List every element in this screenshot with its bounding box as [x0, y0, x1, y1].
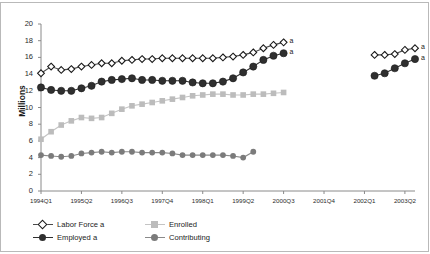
- y-axis-tick-label: 20: [11, 19, 33, 28]
- chart-legend: Labor Force aEnrolledEmployed aContribut…: [33, 218, 263, 244]
- data-point-marker: [179, 77, 186, 84]
- legend-item-label: Enrolled: [169, 220, 197, 229]
- data-point-marker: [230, 53, 237, 60]
- chart-page: Millions 201816141210864201994Q11995Q219…: [0, 0, 430, 254]
- data-point-marker: [170, 96, 176, 102]
- data-point-marker: [371, 51, 378, 58]
- data-point-marker: [219, 78, 226, 85]
- data-point-marker: [280, 50, 287, 57]
- legend-marker-icon: [145, 220, 165, 229]
- y-axis-tick-label: 14: [11, 69, 33, 78]
- x-axis-tick-label: 1999Q2: [220, 197, 266, 204]
- data-point-marker: [261, 91, 267, 97]
- data-point-marker: [190, 93, 196, 99]
- data-point-marker: [210, 152, 216, 158]
- legend-marker-icon: [33, 220, 53, 229]
- chart-plot-area: [0, 0, 430, 254]
- data-point-marker: [250, 49, 257, 56]
- data-point-marker: [58, 87, 65, 94]
- y-axis-tick-label: 18: [11, 36, 33, 45]
- data-point-marker: [98, 78, 105, 85]
- data-point-marker: [240, 51, 247, 58]
- y-axis-tick-label: 4: [11, 153, 33, 162]
- y-axis-tick-label: 8: [11, 119, 33, 128]
- data-point-marker: [48, 129, 54, 135]
- legend-item[interactable]: Enrolled: [145, 220, 257, 229]
- data-point-marker: [58, 67, 65, 74]
- x-axis-tick-label: 2000Q3: [261, 197, 307, 204]
- data-point-marker: [109, 111, 115, 117]
- data-point-marker: [129, 57, 136, 64]
- data-point-marker: [371, 72, 378, 79]
- data-point-marker: [38, 152, 44, 158]
- data-point-marker: [209, 55, 216, 62]
- x-axis-tick-label: 2001Q4: [301, 197, 347, 204]
- x-axis-tick-label: 2002Q1: [341, 197, 387, 204]
- data-point-marker: [79, 115, 85, 121]
- data-point-marker: [220, 91, 226, 97]
- data-point-marker: [391, 51, 398, 58]
- data-point-marker: [169, 55, 176, 62]
- data-point-marker: [68, 66, 75, 73]
- data-point-marker: [159, 98, 165, 104]
- data-point-marker: [230, 153, 236, 159]
- legend-item-label: Contributing: [169, 233, 210, 242]
- data-point-marker: [138, 76, 145, 83]
- data-point-marker: [381, 51, 388, 58]
- data-point-marker: [189, 79, 196, 86]
- data-point-marker: [220, 54, 227, 61]
- data-point-marker: [98, 60, 105, 67]
- y-axis-tick-label: 0: [11, 186, 33, 195]
- data-point-marker: [48, 86, 55, 93]
- data-point-marker: [119, 149, 125, 155]
- data-point-marker: [200, 92, 206, 98]
- data-point-marker: [58, 122, 64, 128]
- series-end-annotation: a: [421, 54, 425, 61]
- data-point-marker: [271, 91, 277, 97]
- data-point-marker: [108, 76, 115, 83]
- data-point-marker: [118, 57, 125, 64]
- data-point-marker: [139, 56, 146, 63]
- data-point-marker: [99, 115, 105, 121]
- data-point-marker: [48, 63, 55, 70]
- y-axis-tick-label: 2: [11, 169, 33, 178]
- data-point-marker: [108, 60, 115, 67]
- data-point-marker: [88, 82, 95, 89]
- data-point-marker: [99, 149, 105, 155]
- data-point-marker: [78, 63, 85, 70]
- legend-item[interactable]: Employed a: [33, 233, 145, 242]
- data-point-marker: [69, 118, 75, 124]
- legend-item-label: Labor Force a: [57, 220, 104, 229]
- data-point-marker: [260, 56, 267, 63]
- data-point-marker: [109, 150, 115, 156]
- data-point-marker: [180, 152, 186, 158]
- data-point-marker: [68, 153, 74, 159]
- legend-item[interactable]: Labor Force a: [33, 220, 145, 229]
- data-point-marker: [240, 155, 246, 161]
- data-point-marker: [190, 152, 196, 158]
- data-point-marker: [128, 75, 135, 82]
- data-point-marker: [229, 75, 236, 82]
- data-point-marker: [68, 87, 75, 94]
- x-axis-tick-label: 1997Q4: [139, 197, 185, 204]
- data-point-marker: [89, 150, 95, 156]
- data-point-marker: [199, 55, 206, 62]
- legend-item[interactable]: Contributing: [145, 233, 257, 242]
- data-point-marker: [250, 63, 257, 70]
- data-point-marker: [412, 45, 419, 52]
- data-point-marker: [210, 91, 216, 97]
- x-axis-tick-label: 1996Q3: [99, 197, 145, 204]
- data-point-marker: [220, 152, 226, 158]
- legend-marker-icon: [145, 233, 165, 242]
- data-point-marker: [149, 56, 156, 63]
- data-point-marker: [240, 92, 246, 98]
- data-point-marker: [270, 41, 277, 48]
- data-point-marker: [179, 55, 186, 62]
- data-point-marker: [270, 52, 277, 59]
- y-axis-tick-label: 12: [11, 86, 33, 95]
- data-point-marker: [159, 55, 166, 62]
- data-point-marker: [139, 101, 145, 107]
- data-point-marker: [199, 80, 206, 87]
- data-point-marker: [189, 55, 196, 62]
- y-axis-tick-label: 16: [11, 52, 33, 61]
